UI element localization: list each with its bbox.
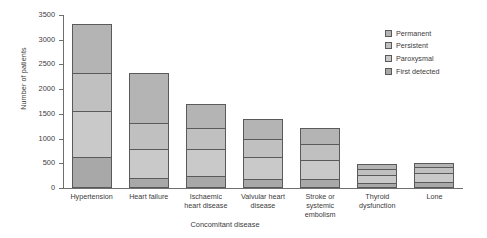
- legend-item-first-detected[interactable]: First detected: [385, 65, 485, 78]
- x-axis-title: Concomitant disease: [60, 220, 390, 229]
- y-axis-tick-label-2500: 2500: [21, 60, 55, 67]
- legend-swatch-icon: [385, 55, 392, 62]
- bar-thyroid-dysfunction: [357, 164, 397, 188]
- chart-figure: Number of patients 050010001500200025003…: [0, 0, 487, 238]
- bar-heart-failure: [129, 73, 169, 188]
- x-axis-label-line: dysfunction: [349, 201, 406, 210]
- bar-segment-persistent: [129, 123, 169, 149]
- y-axis-tick-label-1000: 1000: [21, 135, 55, 142]
- y-axis-tick-label-3000: 3000: [21, 36, 55, 43]
- x-axis-label-line: Valvular heart: [234, 192, 291, 201]
- bar-valvular-heart-disease: [243, 119, 283, 188]
- y-axis-tick-500: [59, 163, 63, 164]
- y-axis-tick-label-3500: 3500: [21, 11, 55, 18]
- y-axis-tick-labels: 0500100015002000250030003500: [21, 15, 55, 189]
- bar-segment-first-detected: [186, 176, 226, 188]
- x-axis-label-ischaemic-heart-disease: Ischaemicheart disease: [177, 192, 234, 210]
- x-axis-label-line: systemic: [292, 201, 349, 210]
- bar-segment-permanent: [72, 24, 112, 73]
- bar-segment-first-detected: [414, 182, 454, 188]
- y-axis-line: [63, 15, 64, 189]
- x-axis-label-line: Ischaemic: [177, 192, 234, 201]
- y-axis-tick-1500: [59, 114, 63, 115]
- legend-item-persistent[interactable]: Persistent: [385, 40, 485, 53]
- bar-segment-first-detected: [300, 179, 340, 188]
- bar-segment-permanent: [414, 163, 454, 167]
- x-axis-label-lone: Lone: [406, 192, 463, 201]
- legend-item-label: Permanent: [396, 29, 431, 38]
- legend-item-paroxysmal[interactable]: Paroxysmal: [385, 52, 485, 65]
- x-axis-label-line: Stroke or: [292, 192, 349, 201]
- bar-segment-paroxysmal: [357, 175, 397, 183]
- bar-segment-permanent: [243, 119, 283, 138]
- bar-lone: [414, 163, 454, 188]
- x-axis-label-line: Thyroid: [349, 192, 406, 201]
- bar-segment-paroxysmal: [129, 149, 169, 178]
- x-axis-label-valvular-heart-disease: Valvular heartdisease: [234, 192, 291, 210]
- x-axis-label-line: Lone: [406, 192, 463, 201]
- x-axis-label-line: Hypertension: [63, 192, 120, 201]
- bar-segment-first-detected: [357, 183, 397, 188]
- y-axis-tick-label-1500: 1500: [21, 110, 55, 117]
- x-axis-label-stroke-or-systemic-embolism: Stroke orsystemicembolism: [292, 192, 349, 220]
- legend-item-label: First detected: [396, 67, 440, 76]
- x-axis-label-thyroid-dysfunction: Thyroiddysfunction: [349, 192, 406, 210]
- y-axis-tick-1000: [59, 139, 63, 140]
- x-axis-label-line: disease: [234, 201, 291, 210]
- bar-segment-paroxysmal: [72, 111, 112, 157]
- bar-ischaemic-heart-disease: [186, 104, 226, 188]
- y-axis-tick-label-2000: 2000: [21, 85, 55, 92]
- x-axis-label-line: Heart failure: [120, 192, 177, 201]
- bar-segment-persistent: [357, 169, 397, 175]
- bar-segment-paroxysmal: [300, 160, 340, 179]
- bar-segment-persistent: [186, 128, 226, 150]
- y-axis-tick-0: [59, 188, 63, 189]
- chart-legend: PermanentPersistentParoxysmalFirst detec…: [385, 27, 485, 77]
- legend-item-label: Persistent: [396, 41, 428, 50]
- bar-segment-permanent: [357, 164, 397, 169]
- y-axis-tick-3000: [59, 40, 63, 41]
- x-axis-label-heart-failure: Heart failure: [120, 192, 177, 201]
- x-axis-label-line: embolism: [292, 210, 349, 219]
- bar-segment-persistent: [243, 139, 283, 158]
- bar-segment-permanent: [129, 73, 169, 123]
- bar-hypertension: [72, 24, 112, 188]
- y-axis-tick-2000: [59, 89, 63, 90]
- bar-segment-paroxysmal: [243, 157, 283, 178]
- x-axis-label-hypertension: Hypertension: [63, 192, 120, 201]
- legend-swatch-icon: [385, 42, 392, 49]
- bar-segment-first-detected: [129, 178, 169, 188]
- y-axis-tick-2500: [59, 64, 63, 65]
- bar-segment-persistent: [72, 73, 112, 111]
- x-axis-label-line: heart disease: [177, 201, 234, 210]
- bar-segment-persistent: [414, 167, 454, 173]
- bar-stroke-or-systemic-embolism: [300, 128, 340, 188]
- bar-segment-permanent: [300, 128, 340, 144]
- bar-segment-first-detected: [243, 179, 283, 188]
- legend-swatch-icon: [385, 68, 392, 75]
- bar-segment-persistent: [300, 144, 340, 160]
- bar-segment-first-detected: [72, 157, 112, 188]
- y-axis-tick-label-500: 500: [21, 159, 55, 166]
- bar-segment-permanent: [186, 104, 226, 127]
- legend-item-label: Paroxysmal: [396, 54, 434, 63]
- bar-segment-paroxysmal: [186, 149, 226, 176]
- bar-segment-paroxysmal: [414, 173, 454, 182]
- x-axis-line: [63, 188, 463, 189]
- legend-swatch-icon: [385, 30, 392, 37]
- legend-item-permanent[interactable]: Permanent: [385, 27, 485, 40]
- y-axis-tick-3500: [59, 15, 63, 16]
- y-axis-tick-label-0: 0: [21, 184, 55, 191]
